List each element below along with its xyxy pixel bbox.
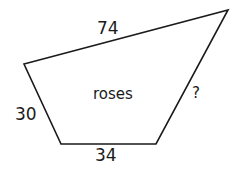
quadrilateral-outline	[24, 10, 228, 144]
side-label-bottom: 34	[95, 145, 117, 165]
region-label: roses	[93, 85, 133, 103]
quadrilateral-diagram: 74 30 34 ? roses	[0, 0, 242, 174]
side-label-top: 74	[97, 18, 119, 38]
side-label-right: ?	[192, 84, 200, 102]
side-label-left: 30	[15, 104, 37, 124]
